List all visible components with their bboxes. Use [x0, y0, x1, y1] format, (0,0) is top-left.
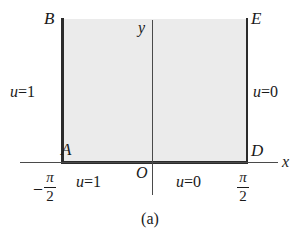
bc-bottom-left-variable: u [76, 173, 84, 190]
bc-right-operator: = [261, 83, 270, 100]
x-axis-line [20, 162, 278, 163]
bc-bottom-right-value: 0 [193, 173, 201, 190]
fraction-left-denominator: 2 [44, 189, 56, 205]
bc-right-value: 0 [270, 83, 278, 100]
bc-right-variable: u [253, 83, 261, 100]
x-tick-pi-over-2: π 2 [237, 170, 249, 205]
fraction-left-numerator: π [44, 170, 56, 186]
boundary-condition-right: u=0 [253, 84, 278, 100]
fraction-right: π 2 [237, 170, 249, 205]
x-tick-negative-pi-over-2: – π 2 [34, 170, 56, 205]
fraction-right-numerator: π [237, 170, 249, 186]
vertex-label-e: E [251, 10, 261, 27]
figure-diagram: B E A D y x O u=1 u=0 u=1 u=0 – π 2 π 2 … [0, 0, 300, 242]
bc-left-value: 1 [27, 83, 35, 100]
bc-left-operator: = [18, 83, 27, 100]
boundary-condition-bottom-left: u=1 [76, 174, 101, 190]
origin-label: O [136, 165, 148, 181]
boundary-edge-right [246, 18, 249, 163]
minus-sign: – [34, 180, 42, 196]
x-axis-label: x [282, 154, 289, 170]
y-axis-label: y [138, 20, 145, 36]
bc-bottom-right-operator: = [184, 173, 193, 190]
vertex-label-b: B [44, 10, 54, 27]
shaded-region [63, 19, 247, 163]
y-axis-line [152, 20, 153, 195]
fraction-left: π 2 [44, 170, 56, 205]
boundary-condition-bottom-right: u=0 [176, 174, 201, 190]
bc-bottom-right-variable: u [176, 173, 184, 190]
fraction-right-denominator: 2 [237, 189, 249, 205]
bc-left-variable: u [10, 83, 18, 100]
figure-caption: (a) [0, 210, 300, 228]
bc-bottom-left-value: 1 [93, 173, 101, 190]
vertex-label-d: D [251, 142, 263, 159]
bc-bottom-left-operator: = [84, 173, 93, 190]
vertex-label-a: A [61, 141, 71, 158]
boundary-condition-left: u=1 [10, 84, 35, 100]
